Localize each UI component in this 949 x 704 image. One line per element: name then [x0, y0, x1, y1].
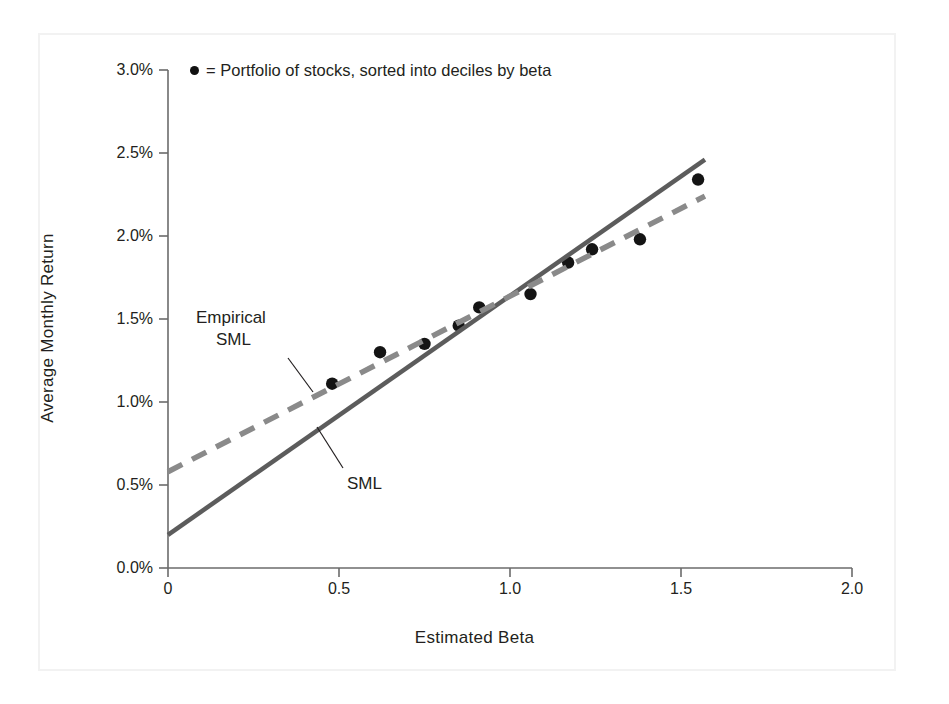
x-axis-title: Estimated Beta [0, 628, 949, 648]
figure-container: Average Monthly Return Estimated Beta 0.… [0, 0, 949, 704]
data-point-marker [634, 233, 646, 245]
x-axis-tick-label: 1.5 [651, 580, 711, 598]
chart-plot-area [0, 0, 949, 704]
y-axis-tick-label: 0.5% [93, 476, 153, 494]
chart-legend: = Portfolio of stocks, sorted into decil… [190, 61, 551, 80]
y-axis-tick-label: 0.0% [93, 559, 153, 577]
y-axis-title: Average Monthly Return [38, 218, 58, 438]
annotation-leader-empirical-sml [288, 358, 313, 392]
data-point-marker [692, 173, 704, 185]
x-axis-tick-label: 2.0 [822, 580, 882, 598]
y-axis-tick-label: 2.5% [93, 144, 153, 162]
x-axis-tick-label: 0 [138, 580, 198, 598]
annotation-empirical-sml-line2: SML [196, 329, 266, 351]
annotation-leader-sml [317, 427, 343, 468]
data-point-marker [374, 346, 386, 358]
y-axis-tick-label: 2.0% [93, 227, 153, 245]
annotation-empirical-sml-line1: Empirical [196, 308, 266, 327]
legend-label: = Portfolio of stocks, sorted into decil… [206, 61, 551, 80]
y-axis-tick-label: 1.0% [93, 393, 153, 411]
annotation-empirical-sml: Empirical SML [196, 307, 266, 351]
legend-marker-filled-circle-icon [190, 66, 199, 75]
x-axis-tick-label: 1.0 [480, 580, 540, 598]
annotation-leader-lines [288, 358, 343, 468]
x-axis-tick-label: 0.5 [309, 580, 369, 598]
y-axis-tick-label: 3.0% [93, 61, 153, 79]
y-axis-tick-label: 1.5% [93, 310, 153, 328]
annotation-sml: SML [347, 473, 382, 495]
data-point-marker [524, 288, 536, 300]
